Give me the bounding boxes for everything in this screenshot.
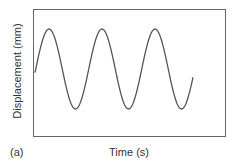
panel-label: (a) (10, 146, 23, 158)
displacement-curve (35, 29, 193, 109)
chart-plot (0, 0, 239, 167)
y-axis-label: Displacement (mm) (11, 23, 23, 118)
x-axis-label: Time (s) (109, 146, 149, 158)
plot-frame (34, 10, 226, 137)
